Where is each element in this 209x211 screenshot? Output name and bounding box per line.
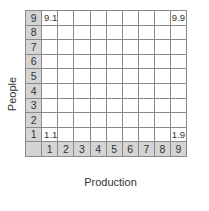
grid-cell [90,98,106,113]
grid-cell [154,113,170,128]
grid-row: 4 [26,83,187,98]
grid-cell [74,98,90,113]
grid-cell [74,11,90,26]
y-tick-label: 5 [26,69,42,84]
grid-cell [42,98,58,113]
grid-cell [122,54,138,69]
grid-cell [138,83,154,98]
x-tick-label: 9 [170,142,186,157]
grid-cell [106,40,122,55]
y-tick-label: 9 [26,11,42,26]
x-tick-label: 7 [138,142,154,157]
y-tick-label: 7 [26,40,42,55]
x-tick-label: 5 [106,142,122,157]
grid-cell [90,11,106,26]
grid-cell [138,113,154,128]
grid-cell [122,98,138,113]
grid-row: 99.19.9 [26,11,187,26]
grid-cell [74,83,90,98]
grid-cell [154,127,170,142]
y-tick-label: 1 [26,127,42,142]
grid-cell [154,25,170,40]
grid-cell [154,54,170,69]
grid-cell [74,54,90,69]
grid-row: 3 [26,98,187,113]
grid-cell [170,98,186,113]
x-tick-label: 4 [90,142,106,157]
cell-value: 9.1 [42,11,58,26]
x-axis-label: Production [25,176,196,188]
grid-cell [154,83,170,98]
grid-cell [90,54,106,69]
cell-value: 1.9 [170,127,186,142]
grid-cell [42,25,58,40]
grid-cell [138,40,154,55]
grid-cell [170,54,186,69]
grid-cell [74,69,90,84]
grid-cell [106,83,122,98]
y-tick-label: 2 [26,113,42,128]
grid-row: 5 [26,69,187,84]
grid-cell [138,69,154,84]
grid-cell [106,98,122,113]
grid-cell [106,54,122,69]
x-tick-label: 8 [154,142,170,157]
grid-cell [58,83,74,98]
grid-cell [58,113,74,128]
cell-value: 9.9 [170,11,186,26]
grid-cell [106,127,122,142]
grid-cell [154,69,170,84]
grid-cell [122,40,138,55]
cell-value: 1.1 [42,127,58,142]
grid-cell [154,98,170,113]
grid-cell [106,25,122,40]
grid-cell [42,83,58,98]
grid-cell [138,11,154,26]
grid-diagram: 99.19.9876543211.11.9123456789 [25,10,187,157]
grid-cell [122,113,138,128]
x-tick-row: 123456789 [26,142,187,157]
grid-cell [170,69,186,84]
grid-cell [74,127,90,142]
grid-cell [74,40,90,55]
grid-row: 7 [26,40,187,55]
grid-cell [170,40,186,55]
grid-row: 8 [26,25,187,40]
corner-cell [26,142,42,157]
grid-cell [90,40,106,55]
grid-cell [106,11,122,26]
x-tick-label: 6 [122,142,138,157]
y-tick-label: 6 [26,54,42,69]
grid-cell [122,11,138,26]
grid-cell [42,40,58,55]
grid-cell [138,54,154,69]
grid-cell [122,69,138,84]
grid-cell [90,69,106,84]
grid-cell [138,127,154,142]
grid-cell [74,113,90,128]
grid-cell [58,98,74,113]
grid-cell [58,54,74,69]
grid-cell [122,25,138,40]
grid-cell [154,40,170,55]
x-tick-label: 3 [74,142,90,157]
grid-cell [58,11,74,26]
grid-cell [90,25,106,40]
grid-cell [170,83,186,98]
y-axis-label: People [6,74,18,114]
grid-cell [122,83,138,98]
y-tick-label: 3 [26,98,42,113]
y-tick-label: 8 [26,25,42,40]
grid-cell [58,69,74,84]
grid-cell [42,69,58,84]
grid-cell [58,127,74,142]
grid-cell [42,54,58,69]
grid-row: 2 [26,113,187,128]
grid-cell [90,127,106,142]
y-tick-label: 4 [26,83,42,98]
x-tick-label: 1 [42,142,58,157]
grid-cell [170,113,186,128]
grid-cell [170,25,186,40]
grid-cell [138,98,154,113]
grid-cell [90,83,106,98]
